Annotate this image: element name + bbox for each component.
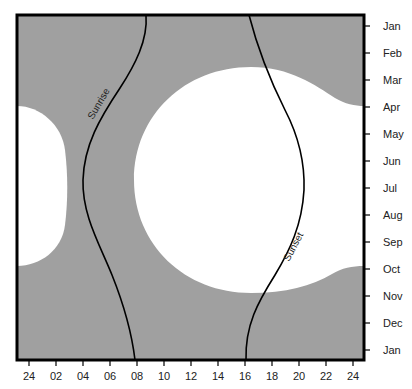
x-tick-label: 08 xyxy=(131,370,143,382)
y-tick-label: Jun xyxy=(383,155,401,167)
y-tick-label: Apr xyxy=(383,101,400,113)
x-tick-label: 16 xyxy=(239,370,251,382)
y-tick-label: Feb xyxy=(383,47,402,59)
x-tick-label: 06 xyxy=(104,370,116,382)
y-tick-label: Oct xyxy=(383,263,400,275)
x-tick-label: 04 xyxy=(77,370,89,382)
x-tick-label: 22 xyxy=(320,370,332,382)
x-tick-label: 14 xyxy=(212,370,224,382)
y-tick-label: Dec xyxy=(383,317,403,329)
y-tick-label: Jul xyxy=(383,182,397,194)
x-axis xyxy=(29,361,353,366)
y-tick-label: Jan xyxy=(383,344,401,356)
x-tick-label: 02 xyxy=(50,370,62,382)
x-tick-label: 20 xyxy=(293,370,305,382)
x-tick-label: 12 xyxy=(185,370,197,382)
y-tick-label: Aug xyxy=(383,209,403,221)
sunrise-sunset-chart: Sunrise Sunset 24 02 04 06 08 10 12 14 1… xyxy=(0,0,412,389)
x-tick-label: 18 xyxy=(266,370,278,382)
y-tick-label: Jan xyxy=(383,20,401,32)
y-tick-label: Nov xyxy=(383,290,403,302)
y-tick-label: Sep xyxy=(383,236,403,248)
x-tick-label: 10 xyxy=(158,370,170,382)
y-tick-label: Mar xyxy=(383,74,402,86)
y-axis xyxy=(365,26,370,350)
central-light-region xyxy=(134,67,364,293)
x-tick-label: 24 xyxy=(23,370,35,382)
y-tick-label: May xyxy=(383,128,404,140)
x-tick-label: 24 xyxy=(347,370,359,382)
